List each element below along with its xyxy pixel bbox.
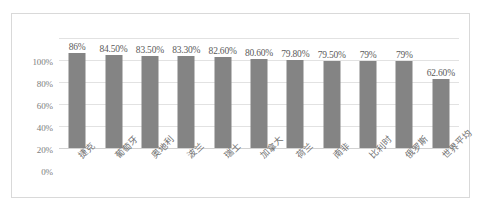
- y-axis-tick-label: 100%: [32, 57, 53, 67]
- y-axis-tick-label: 60%: [37, 101, 53, 111]
- bar[interactable]: [178, 56, 195, 148]
- bar[interactable]: [214, 57, 231, 148]
- x-axis-slot: 比利时: [350, 150, 386, 194]
- x-axis-slot: 葡萄牙: [95, 150, 131, 194]
- y-axis-tick-label: 0%: [41, 167, 53, 177]
- bar-value-label: 82.60%: [209, 46, 237, 56]
- x-axis-slot: 捷克: [59, 150, 95, 194]
- x-axis-slot: 瑞士: [204, 150, 240, 194]
- y-axis-tick-label: 80%: [37, 79, 53, 89]
- y-axis-tick-label: 20%: [37, 145, 53, 155]
- y-axis-tick-label: 40%: [37, 123, 53, 133]
- bar-value-label: 83.30%: [172, 45, 200, 55]
- bar-value-label: 84.50%: [99, 44, 127, 54]
- bar[interactable]: [396, 61, 413, 148]
- bar-value-label: 79%: [360, 50, 377, 60]
- bar-value-label: 79.50%: [318, 50, 346, 60]
- x-axis-slot: 南非: [314, 150, 350, 194]
- bar[interactable]: [360, 61, 377, 148]
- bar[interactable]: [432, 79, 449, 148]
- bar-slot: 82.60%: [204, 38, 240, 148]
- plot-area: 86%84.50%83.50%83.30%82.60%80.60%79.80%7…: [59, 38, 459, 148]
- x-axis-slot: 荷兰: [277, 150, 313, 194]
- bar-slot: 79.80%: [277, 38, 313, 148]
- bar-slot: 62.60%: [423, 38, 459, 148]
- x-axis-slot: 波兰: [168, 150, 204, 194]
- x-axis-slot: 世界平均: [423, 150, 459, 194]
- bar-value-label: 62.60%: [427, 68, 455, 78]
- chart-frame: 100%80%60%40%20%0% 86%84.50%83.50%83.30%…: [11, 13, 470, 198]
- bar-slot: 86%: [59, 38, 95, 148]
- x-axis-slot: 俄罗斯: [386, 150, 422, 194]
- bar[interactable]: [287, 60, 304, 148]
- bar[interactable]: [141, 56, 158, 148]
- bar-slot: 79.50%: [314, 38, 350, 148]
- bar-slot: 83.50%: [132, 38, 168, 148]
- x-axis-slot: 奥地利: [132, 150, 168, 194]
- y-axis: 100%80%60%40%20%0%: [12, 38, 56, 148]
- bar-slot: 83.30%: [168, 38, 204, 148]
- bar-slot: 79%: [386, 38, 422, 148]
- bar[interactable]: [250, 59, 267, 148]
- bar-value-label: 80.60%: [245, 48, 273, 58]
- bar-value-label: 79.80%: [281, 49, 309, 59]
- bar[interactable]: [105, 55, 122, 148]
- x-axis-slot: 加拿大: [241, 150, 277, 194]
- bar-series: 86%84.50%83.50%83.30%82.60%80.60%79.80%7…: [59, 38, 459, 148]
- bar[interactable]: [323, 61, 340, 148]
- bar-slot: 80.60%: [241, 38, 277, 148]
- x-axis: 捷克葡萄牙奥地利波兰瑞士加拿大荷兰南非比利时俄罗斯世界平均: [59, 150, 459, 194]
- bar[interactable]: [69, 53, 86, 148]
- bar-slot: 79%: [350, 38, 386, 148]
- bar-value-label: 86%: [69, 42, 86, 52]
- bar-slot: 84.50%: [95, 38, 131, 148]
- bar-value-label: 83.50%: [136, 45, 164, 55]
- bar-value-label: 79%: [396, 50, 413, 60]
